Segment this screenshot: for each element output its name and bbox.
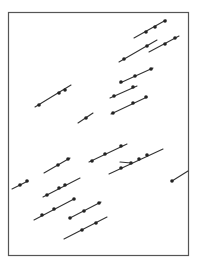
segment-point (122, 57, 126, 61)
line-segment (119, 67, 153, 84)
segment-line (111, 97, 147, 114)
segment-point (163, 19, 167, 23)
segment-point (68, 216, 72, 220)
segment-point (145, 44, 149, 48)
segment-point (66, 157, 70, 161)
segment-point (149, 67, 153, 71)
segments-group (12, 19, 188, 239)
segment-point (37, 103, 41, 107)
line-segment (110, 85, 137, 98)
segment-point (94, 221, 98, 225)
segment-point (45, 193, 49, 197)
line-segment (68, 201, 101, 220)
segment-point (145, 153, 149, 157)
segment-line (64, 217, 107, 239)
segment-line (134, 20, 166, 38)
segment-point (170, 179, 174, 183)
line-segment (35, 85, 71, 107)
segment-line (35, 85, 71, 107)
segment-point (119, 166, 123, 170)
segment-line (109, 149, 163, 174)
segment-point (163, 42, 167, 46)
segment-point (111, 111, 115, 115)
line-segment (44, 157, 70, 173)
segment-diagram (0, 0, 199, 267)
line-segment (170, 171, 188, 183)
segment-point (103, 152, 107, 156)
segment-point (112, 94, 116, 98)
line-segment (78, 113, 93, 123)
line-segment (64, 217, 107, 239)
segment-point (144, 30, 148, 34)
segment-point (131, 85, 135, 89)
segment-point (119, 144, 123, 148)
segment-point (119, 80, 123, 84)
segment-point (57, 91, 61, 95)
segment-point (82, 209, 86, 213)
segment-point (56, 163, 60, 167)
segment-point (173, 36, 177, 40)
segment-line (70, 202, 101, 218)
segment-point (80, 228, 84, 232)
segment-point (133, 74, 137, 78)
line-segment (149, 36, 179, 52)
segment-point (40, 213, 44, 217)
segment-point (153, 25, 157, 29)
segment-line (172, 171, 188, 181)
line-segment (12, 179, 29, 189)
line-segment (89, 144, 127, 163)
line-segment (134, 19, 167, 38)
segment-point (144, 95, 148, 99)
line-segment (43, 178, 80, 197)
segment-point (25, 179, 29, 183)
segment-point (97, 201, 101, 205)
segment-point (84, 116, 88, 120)
segment-point (72, 197, 76, 201)
line-segment (109, 149, 163, 174)
segment-point (137, 157, 141, 161)
segment-point (18, 183, 22, 187)
line-segment (111, 95, 148, 115)
line-segment (120, 162, 131, 163)
segment-point (63, 183, 67, 187)
segment-point (131, 101, 135, 105)
segment-point (57, 186, 61, 190)
segment-line (120, 162, 131, 163)
segment-point (63, 88, 67, 92)
segment-point (90, 159, 94, 163)
segment-point (52, 207, 56, 211)
